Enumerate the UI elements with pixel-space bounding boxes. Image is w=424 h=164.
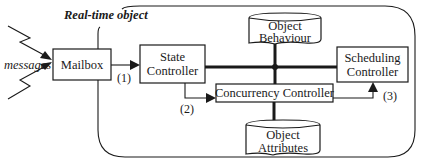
concurrency-controller-box[interactable]: Concurrency Controller bbox=[215, 84, 335, 102]
flow-label-2: (2) bbox=[180, 102, 194, 116]
scheduling-controller-label-line1: Scheduling bbox=[344, 51, 401, 65]
mailbox-label: Mailbox bbox=[61, 58, 104, 72]
flow-arrow-3 bbox=[333, 82, 378, 98]
messages-label: messages bbox=[4, 58, 51, 72]
state-controller-box[interactable]: State Controller bbox=[140, 45, 205, 83]
bus-junction-dot bbox=[272, 64, 278, 70]
object-behaviour-store[interactable]: Object Behaviour bbox=[249, 13, 321, 45]
object-attributes-store[interactable]: Object Attributes bbox=[246, 120, 320, 155]
flow-arrow-1 bbox=[111, 60, 140, 70]
object-attributes-label-line1: Object bbox=[266, 128, 300, 142]
object-attributes-label-line2: Attributes bbox=[258, 141, 308, 155]
scheduling-controller-label-line2: Controller bbox=[347, 65, 399, 79]
messages-arrow-top bbox=[8, 26, 52, 60]
mailbox-box[interactable]: Mailbox bbox=[53, 49, 111, 80]
flow-arrow-2 bbox=[185, 83, 216, 103]
real-time-object-diagram: Real-time object messages Mailbox (1) St… bbox=[0, 0, 424, 164]
container-label: Real-time object bbox=[63, 8, 148, 22]
scheduling-controller-box[interactable]: Scheduling Controller bbox=[337, 47, 408, 82]
state-controller-label-line2: Controller bbox=[147, 64, 199, 78]
flow-label-3: (3) bbox=[383, 89, 397, 103]
state-controller-label-line1: State bbox=[160, 50, 185, 64]
object-behaviour-label-line2: Behaviour bbox=[259, 31, 312, 45]
concurrency-controller-label: Concurrency Controller bbox=[215, 86, 335, 100]
flow-label-1: (1) bbox=[117, 71, 131, 85]
